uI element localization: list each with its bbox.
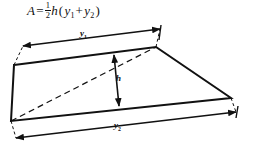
dimension-tick-y2-right: [236, 106, 238, 118]
label-y2: y2: [114, 120, 121, 132]
label-y1-subscript: 1: [84, 34, 87, 40]
label-y1: y1: [80, 28, 87, 40]
dimension-line-y1: [23, 29, 160, 46]
trapezoid-outline: [11, 47, 231, 121]
dashed-extension-left: [14, 46, 23, 65]
dashed-diagonal-line: [11, 47, 156, 121]
dashed-extension-bottom-left: [11, 121, 16, 138]
dimension-tick-y1-right: [159, 25, 161, 40]
figure-page: A=12h(y1+y2) y1 y2 h: [0, 0, 253, 148]
label-h: h: [116, 73, 121, 83]
dashed-extension-right: [231, 98, 236, 112]
dimension-line-y2: [16, 112, 236, 138]
trapezoid-figure: [0, 0, 253, 148]
label-y2-subscript: 2: [118, 126, 121, 132]
